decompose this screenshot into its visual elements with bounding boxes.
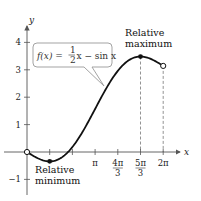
relative-maximum-label: Relative maximum: [125, 27, 172, 49]
y-tick-label: 2: [16, 92, 21, 102]
relative-minimum-label: Relative minimum: [35, 164, 80, 186]
function-graph: π4π35π32π−11234 f(x) = 1 2 x − sin x Rel…: [0, 0, 201, 201]
x-tick-label-numerator: 5π: [135, 158, 146, 168]
function-rhs: x − sin x: [77, 51, 117, 61]
y-tick-label: 4: [16, 37, 21, 47]
y-tick-label: 1: [16, 120, 21, 130]
min-label-line2: minimum: [35, 175, 80, 186]
y-tick-label: −1: [8, 174, 21, 184]
x-axis-label: x: [184, 147, 189, 157]
fraction-denominator: 2: [70, 55, 76, 65]
x-tick-label: 2π: [158, 158, 169, 168]
x-tick-label-numerator: 4π: [112, 158, 123, 168]
open-endpoint: [161, 63, 166, 68]
x-tick-label-denominator: 3: [138, 168, 143, 178]
max-label-line2: maximum: [125, 38, 172, 49]
extremum-point: [138, 54, 143, 59]
min-label-line1: Relative: [35, 164, 75, 175]
y-axis-label: y: [28, 15, 35, 25]
dashed-guide-lines: [141, 57, 164, 152]
x-tick-label: π: [92, 158, 98, 168]
open-endpoint: [24, 149, 29, 154]
function-label-callout: f(x) = 1 2 x − sin x: [33, 43, 116, 86]
x-tick-label-denominator: 3: [115, 168, 120, 178]
max-label-line1: Relative: [125, 27, 165, 38]
fraction-numerator: 1: [70, 45, 76, 55]
function-lhs: f(x) =: [36, 51, 63, 61]
y-tick-label: 3: [16, 65, 21, 75]
